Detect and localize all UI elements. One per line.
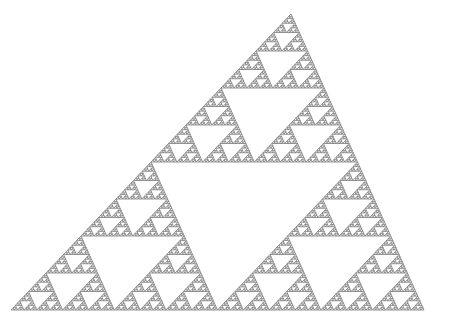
sierpinski-triangle-figure [0,0,450,325]
sierpinski-triangle-paths [11,14,424,310]
sierpinski-outline-path [11,14,424,310]
fractal-canvas [0,0,450,325]
